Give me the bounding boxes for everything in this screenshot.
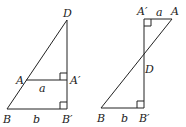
line-AB xyxy=(101,19,172,108)
label-B: B xyxy=(96,112,105,125)
label-A-prime: A′ xyxy=(69,74,81,87)
line-DB xyxy=(7,20,67,109)
label-A-prime: A′ xyxy=(136,5,148,18)
label-a: a xyxy=(156,6,163,19)
label-A: A xyxy=(15,74,24,87)
label-B-prime: B′ xyxy=(61,113,73,126)
left-figure: D A A′ a B b B′ xyxy=(2,7,81,126)
label-B: B xyxy=(2,113,11,126)
similar-triangles-diagram: D A A′ a B b B′ A′ a A D B b B′ xyxy=(0,0,186,127)
right-figure: A′ a A D B b B′ xyxy=(96,5,179,125)
label-b: b xyxy=(121,112,128,125)
right-angle-marker-A-prime xyxy=(144,19,151,26)
right-angle-marker-A-prime xyxy=(60,73,67,80)
right-angle-marker-B-prime xyxy=(60,102,67,109)
label-A: A xyxy=(170,5,179,18)
label-D: D xyxy=(144,63,154,76)
label-B-prime: B′ xyxy=(138,112,150,125)
right-angle-marker-B-prime xyxy=(137,101,144,108)
label-b: b xyxy=(33,113,40,126)
label-a: a xyxy=(39,82,46,95)
label-D: D xyxy=(62,7,72,20)
